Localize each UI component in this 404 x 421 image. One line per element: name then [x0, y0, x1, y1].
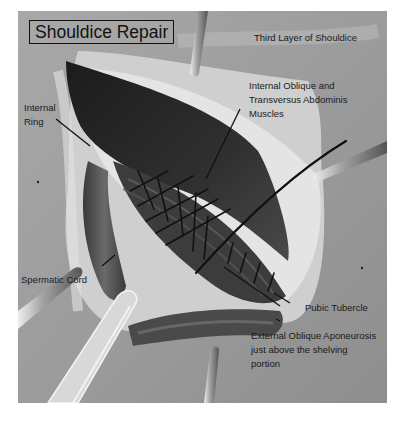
muscles-label: Internal Oblique and Transversus Abdomin…: [249, 79, 347, 121]
pubic-tubercle-label: Pubic Tubercle: [305, 301, 368, 315]
shouldice-repair-illustration: Shouldice Repair Third Layer of Shouldic…: [18, 11, 387, 403]
figure-title: Shouldice Repair: [29, 20, 174, 44]
spermatic-cord-label: Spermatic Cord: [21, 273, 87, 287]
subtitle-label: Third Layer of Shouldice: [254, 31, 357, 45]
internal-ring-label: Internal Ring: [24, 101, 56, 129]
aponeurosis-label: External Oblique Aponeurosis just above …: [251, 329, 376, 371]
